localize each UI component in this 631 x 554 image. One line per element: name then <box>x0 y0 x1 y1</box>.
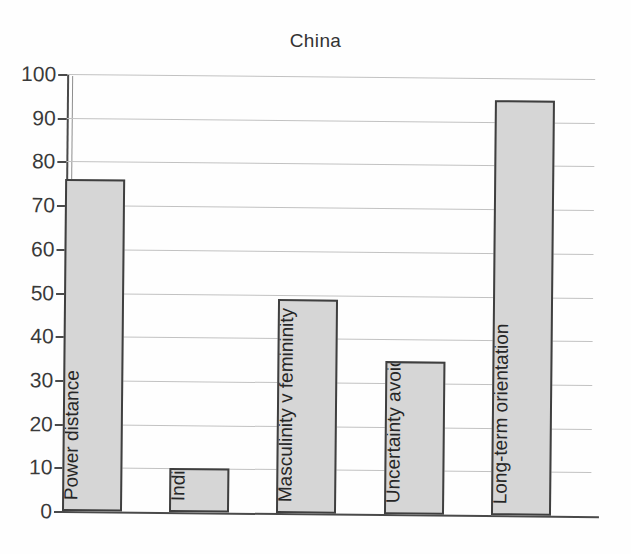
bar-category-label: Individualism v collectivism <box>169 468 190 501</box>
bar[interactable]: Uncertainty avoidance <box>384 361 445 515</box>
plot-skew-wrapper: 1009080706050403020100 Power distanceInd… <box>0 0 631 554</box>
gridline <box>67 74 595 80</box>
bar[interactable]: Individualism v collectivism <box>169 468 229 512</box>
gridlines-group <box>67 74 595 79</box>
bar-category-label: Long-term orientation <box>491 324 511 505</box>
y-axis-tick-label: 0 <box>40 500 52 521</box>
bar-category-label: Power distance <box>62 370 82 500</box>
y-axis-tick-label: 50 <box>31 282 55 303</box>
y-axis-tick <box>57 161 66 163</box>
y-axis-tick-label: 60 <box>31 238 55 259</box>
y-axis-tick-label: 40 <box>30 325 54 346</box>
bar[interactable]: Masculinity v femininity <box>276 299 338 514</box>
y-axis-tick <box>58 118 67 120</box>
bar[interactable]: Long-term orientation <box>491 100 555 516</box>
y-axis-tick-label: 70 <box>31 194 55 215</box>
y-axis-tick-label: 10 <box>29 456 53 477</box>
bar-category-label: Uncertainty avoidance <box>384 361 404 503</box>
y-axis-tick <box>58 74 67 76</box>
bar-category-label: Masculinity v femininity <box>276 308 296 502</box>
y-axis-tick-label: 30 <box>30 369 54 390</box>
y-axis-tick-label: 90 <box>32 107 56 128</box>
chart-figure: China 1009080706050403020100 Power dista… <box>0 0 631 554</box>
y-axis-tick-label: 80 <box>32 151 56 172</box>
y-axis-tick-label: 100 <box>21 63 56 84</box>
bar[interactable]: Power distance <box>62 179 125 512</box>
plot-area: 1009080706050403020100 Power distanceInd… <box>63 74 595 516</box>
y-axis-tick <box>54 511 63 513</box>
y-axis-tick-label: 20 <box>29 413 53 434</box>
